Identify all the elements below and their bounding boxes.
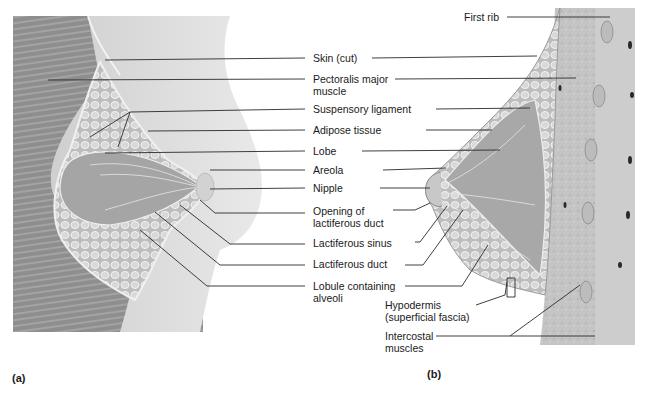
label-pectoralis-major-1: Pectoralis major <box>313 73 388 85</box>
label-lobule-containing-alveoli-2: alveoli <box>313 292 343 304</box>
label-adipose-tissue: Adipose tissue <box>313 124 381 136</box>
label-skin-cut: Skin (cut) <box>313 52 357 64</box>
panel-caption-a: (a) <box>12 372 25 384</box>
label-lobule-containing-alveoli-1: Lobule containing <box>313 280 395 292</box>
label-suspensory-ligament: Suspensory ligament <box>313 103 411 115</box>
label-lobe: Lobe <box>313 145 336 157</box>
label-areola: Areola <box>313 164 343 176</box>
panel-a-drawing <box>13 16 262 332</box>
label-hypodermis-2: (superficial fascia) <box>385 311 470 323</box>
label-pectoralis-major-2: muscle <box>313 85 346 97</box>
label-hypodermis-1: Hypodermis <box>385 299 441 311</box>
label-lactiferous-sinus: Lactiferous sinus <box>313 237 392 249</box>
label-intercostal-muscles-1: Intercostal <box>385 330 433 342</box>
label-lactiferous-duct: Lactiferous duct <box>313 258 387 270</box>
label-nipple: Nipple <box>313 182 343 194</box>
panel-b-drawing <box>426 8 635 345</box>
label-first-rib: First rib <box>464 11 499 23</box>
label-opening-lactiferous-duct-1: Opening of <box>313 205 364 217</box>
panel-caption-b: (b) <box>427 368 441 380</box>
anatomy-figure: Skin (cut) Pectoralis major muscle Suspe… <box>0 0 649 394</box>
label-opening-lactiferous-duct-2: lactiferous duct <box>313 217 384 229</box>
label-intercostal-muscles-2: muscles <box>385 342 424 354</box>
